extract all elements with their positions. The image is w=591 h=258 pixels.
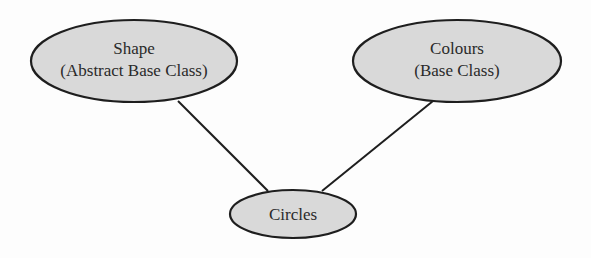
diagram-canvas: Shape (Abstract Base Class) Colours (Bas…	[0, 0, 591, 258]
node-colours-subtitle: (Base Class)	[414, 61, 499, 80]
node-shape-title: Shape	[113, 39, 155, 58]
node-shape-subtitle: (Abstract Base Class)	[60, 61, 207, 80]
node-colours-title: Colours	[430, 39, 484, 58]
edge-shape-to-circles	[178, 101, 268, 191]
node-circles: Circles	[230, 190, 356, 238]
node-shape: Shape (Abstract Base Class)	[31, 20, 237, 102]
node-circles-title: Circles	[269, 205, 317, 224]
edge-colours-to-circles	[322, 101, 433, 191]
node-colours: Colours (Base Class)	[353, 20, 561, 102]
diagram-svg: Shape (Abstract Base Class) Colours (Bas…	[0, 0, 591, 258]
